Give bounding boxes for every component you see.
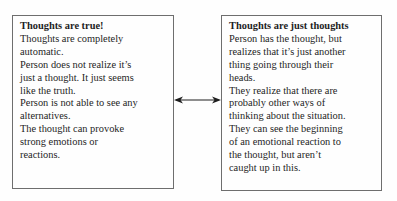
box-line: like the truth. — [20, 85, 167, 98]
box-title: Thoughts are just thoughts — [229, 20, 375, 33]
box-line: thing going through their — [229, 59, 375, 72]
box-line: reactions. — [20, 149, 167, 162]
double-arrow-icon — [174, 95, 221, 105]
box-line: strong emotions or — [20, 136, 167, 149]
box-line: Thoughts are completely — [20, 33, 167, 46]
box-title: Thoughts are true! — [20, 20, 167, 33]
box-line: Person has the thought, but — [229, 33, 375, 46]
box-line: Person does not realize it’s — [20, 59, 167, 72]
box-line: The thought can provoke — [20, 123, 167, 136]
box-line: of an emotional reaction to — [229, 136, 375, 149]
box-line: caught up in this. — [229, 162, 375, 175]
box-line: They can see the beginning — [229, 123, 375, 136]
thoughts-are-just-thoughts-box: Thoughts are just thoughts Person has th… — [221, 15, 382, 191]
box-line: heads. — [229, 72, 375, 85]
box-line: just a thought. It just seems — [20, 72, 167, 85]
box-line: realizes that it’s just another — [229, 46, 375, 59]
box-line: They realize that there are — [229, 85, 375, 98]
thoughts-are-true-box: Thoughts are true! Thoughts are complete… — [12, 15, 174, 189]
box-line: Person is not able to see any — [20, 97, 167, 110]
box-line: alternatives. — [20, 110, 167, 123]
box-line: automatic. — [20, 46, 167, 59]
box-line: thinking about the situation. — [229, 110, 375, 123]
box-line: probably other ways of — [229, 97, 375, 110]
box-line: the thought, but aren’t — [229, 149, 375, 162]
